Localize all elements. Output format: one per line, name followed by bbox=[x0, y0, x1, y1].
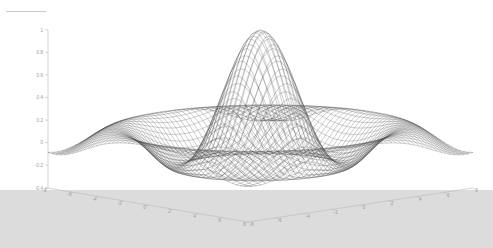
z-tick-label: 0.4 bbox=[37, 95, 44, 100]
x-tick-label: 2 bbox=[168, 209, 171, 214]
x-tick-label: 4 bbox=[193, 214, 196, 219]
y-tick-label: 6 bbox=[447, 193, 450, 198]
z-axis-ticks: -0.4-0.200.20.40.60.81 bbox=[35, 28, 48, 191]
y-tick-label: 0 bbox=[363, 205, 366, 210]
x-tick-label: -8 bbox=[42, 188, 47, 193]
z-tick-label: 0.6 bbox=[37, 73, 44, 78]
y-tick-label: 4 bbox=[419, 197, 422, 202]
mesh-wireframe bbox=[48, 30, 473, 186]
z-tick-label: 0.8 bbox=[37, 50, 44, 55]
z-tick-label: 1 bbox=[40, 28, 43, 33]
y-tick-label: -2 bbox=[334, 210, 339, 215]
y-tick-label: 2 bbox=[391, 201, 394, 206]
x-tick-label: -4 bbox=[92, 197, 97, 202]
x-tick-label: 0 bbox=[143, 205, 146, 210]
x-tick-label: -2 bbox=[117, 201, 122, 206]
y-tick-label: -6 bbox=[278, 218, 283, 223]
y-tick-label: -4 bbox=[306, 214, 311, 219]
x-tick-label: -6 bbox=[67, 192, 72, 197]
y-axis-ticks: -8-6-4-202468 bbox=[248, 188, 478, 227]
x-tick-label: 6 bbox=[218, 218, 221, 223]
y-tick-label: 8 bbox=[475, 188, 478, 193]
surface-plot-svg: -0.4-0.200.20.40.60.81-8-6-4-202468-8-6-… bbox=[0, 0, 493, 248]
z-tick-label: 0 bbox=[40, 140, 43, 145]
surface-plot-canvas[interactable]: -0.4-0.200.20.40.60.81-8-6-4-202468-8-6-… bbox=[0, 0, 493, 248]
x-axis-ticks: -8-6-4-202468 bbox=[42, 188, 248, 227]
x-tick-label: 8 bbox=[243, 222, 246, 227]
y-tick-label: -8 bbox=[249, 222, 254, 227]
z-tick-label: 0.2 bbox=[37, 118, 44, 123]
z-tick-label: -0.2 bbox=[35, 163, 43, 168]
figure-window: -0.4-0.200.20.40.60.81-8-6-4-202468-8-6-… bbox=[0, 0, 493, 248]
